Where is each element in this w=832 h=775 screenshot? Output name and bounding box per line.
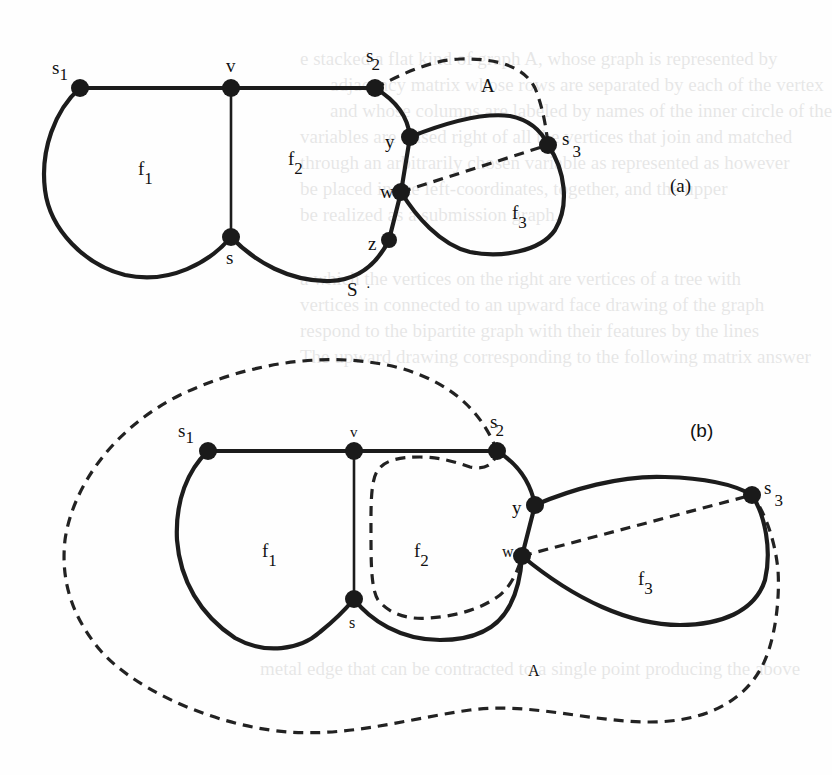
face-label-f1: f1	[262, 540, 277, 570]
vertex-s2	[488, 442, 506, 460]
edge-s3-w	[522, 495, 768, 625]
label-v: v	[226, 55, 236, 76]
diagram-a: s1 v s2 y s3 w z s f1 f2 f3 A S · (a)	[44, 45, 691, 300]
label-s1: s1	[52, 57, 68, 84]
label-w: w	[380, 181, 394, 202]
label-y: y	[512, 497, 522, 518]
panel-label-a: (a)	[670, 175, 691, 197]
vertex-s2	[366, 79, 384, 97]
edge-s3-w	[401, 145, 564, 254]
label-s: s	[349, 614, 355, 631]
face-label-f3: f3	[512, 202, 527, 232]
face-label-f2: f2	[414, 540, 429, 570]
vertex-y	[526, 496, 544, 514]
edge-s1-s-loop	[44, 88, 231, 277]
dashed-edge-w-s3	[522, 495, 752, 556]
vertex-s3	[539, 136, 557, 154]
label-v: v	[350, 424, 358, 440]
dashed-inner-f2	[371, 451, 522, 618]
label-s2: s2	[490, 411, 504, 440]
edge-y-s3	[410, 115, 548, 145]
label-y: y	[385, 131, 395, 152]
face-label-f3: f3	[638, 568, 653, 598]
outer-label-S: S	[347, 279, 358, 300]
edge-s2-y	[375, 88, 410, 137]
face-label-f1: f1	[138, 158, 153, 188]
label-w: w	[502, 543, 514, 560]
region-label-A: A	[528, 662, 540, 679]
vertex-s	[222, 228, 240, 246]
vertex-y	[401, 128, 419, 146]
vertex-w	[392, 183, 410, 201]
label-s: s	[226, 247, 233, 268]
dashed-outer-boundary	[64, 360, 778, 733]
edge-s-z	[231, 237, 389, 281]
vertex-s1	[71, 79, 89, 97]
vertex-w	[513, 547, 531, 565]
label-s3: s3	[764, 477, 783, 510]
vertex-s1	[199, 442, 217, 460]
outer-label-dot: ·	[366, 280, 371, 295]
label-z: z	[368, 233, 376, 254]
vertex-s3	[743, 486, 761, 504]
face-label-f2: f2	[288, 148, 303, 178]
label-s3: s3	[562, 128, 581, 161]
label-s1: s1	[178, 420, 194, 447]
diagram-b: s1 v s2 y s3 w s f1 f2 f3 A (b)	[64, 360, 783, 733]
dashed-edge-s2-s3	[375, 59, 548, 145]
edge-y-s3	[535, 477, 752, 505]
vertex-v	[345, 442, 363, 460]
region-label-A: A	[481, 75, 495, 96]
vertex-s	[345, 590, 363, 608]
vertex-z	[381, 232, 397, 248]
label-s2: s2	[366, 45, 380, 74]
dashed-edge-w-s3	[401, 145, 548, 192]
panel-label-b: (b)	[690, 420, 713, 441]
vertex-v	[222, 79, 240, 97]
